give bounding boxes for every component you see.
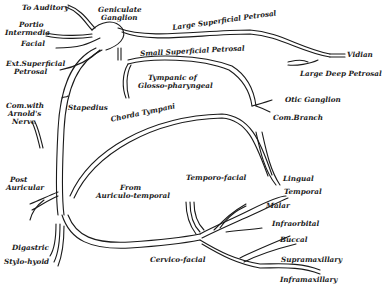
label-infraorbital: Infraorbital [272,220,319,228]
label-post-auricular-2: Auricular [6,184,44,192]
label-portio-2: Intermedia [5,29,50,37]
label-supramaxillary: Supramaxillary [281,256,342,264]
label-large-deep-petrosal: Large Deep Petrosal [300,70,382,78]
label-ext-superficial-2: Petrosal [14,68,47,76]
label-com-arnold-3: Nerve [12,118,36,126]
label-inframaxillary: Inframaxillary [280,276,337,284]
label-lingual: Lingual [283,175,314,183]
label-tympanic-2: Glosso-pharyngeal [138,82,213,90]
label-stylo-hyoid: Stylo-hyoid [4,258,49,266]
label-stapedius: Stapedius [68,104,108,112]
label-malar: Malar [266,202,290,210]
label-temporo-facial: Temporo-facial [186,174,246,182]
label-digastric: Digastric [12,244,49,252]
label-otic-ganglion: Otic Ganglion [285,96,341,104]
label-from-auriculo-2: Auriculo-temporal [96,192,170,200]
label-temporal: Temporal [284,188,322,196]
label-buccal: Buccal [280,236,307,244]
label-com-branch: Com.Branch [273,114,323,122]
label-cervico-facial: Cervico-facial [150,256,205,264]
label-to-auditory: To Auditory [22,4,68,12]
label-geniculate-2: Ganglion [101,14,138,22]
label-facial: Facial [21,40,45,48]
label-vidian: Vidian [347,51,373,59]
